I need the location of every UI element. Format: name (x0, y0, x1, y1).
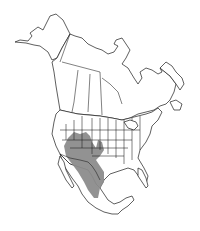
newfoundland-shape (170, 100, 182, 110)
north-america-map (0, 0, 200, 231)
range-map: Species range map — North America Range (0, 0, 200, 231)
canada-shape (52, 34, 176, 120)
